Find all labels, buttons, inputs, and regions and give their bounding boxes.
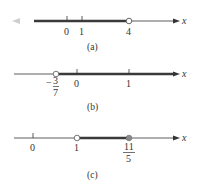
axis-variable-label: x bbox=[181, 132, 187, 143]
tick-label-4: 4 bbox=[126, 26, 131, 37]
left-arrowhead-icon bbox=[12, 18, 20, 24]
panel-c: x 0 1 11 5 (c) bbox=[14, 132, 187, 181]
tick-label-1: 1 bbox=[79, 26, 84, 37]
caption-c: (c) bbox=[87, 170, 98, 181]
panel-a: x 0 1 4 (a) bbox=[12, 15, 187, 53]
open-endpoint-icon bbox=[74, 135, 80, 141]
axis-variable-label: x bbox=[181, 68, 187, 79]
closed-endpoint-icon bbox=[126, 135, 132, 141]
fraction-sign: − bbox=[46, 77, 52, 88]
fraction-denominator: 5 bbox=[126, 153, 131, 164]
tick-label-0: 0 bbox=[64, 26, 69, 37]
tick-label-0: 0 bbox=[74, 78, 79, 89]
fraction-numerator: 11 bbox=[124, 141, 134, 152]
right-arrowhead-icon bbox=[173, 136, 180, 141]
tick-label-1: 1 bbox=[74, 142, 79, 153]
axis-variable-label: x bbox=[181, 15, 187, 26]
right-arrowhead-icon bbox=[173, 19, 180, 24]
number-line-figure: x 0 1 4 (a) x − 3 7 0 1 (b) x 0 1 11 bbox=[0, 0, 199, 192]
right-arrowhead-icon bbox=[173, 72, 180, 77]
open-endpoint-icon bbox=[126, 18, 132, 24]
tick-label-1: 1 bbox=[126, 78, 131, 89]
caption-b: (b) bbox=[87, 102, 98, 113]
fraction-numerator: 3 bbox=[53, 75, 58, 86]
panel-b: x − 3 7 0 1 (b) bbox=[14, 68, 187, 113]
caption-a: (a) bbox=[87, 42, 98, 53]
tick-label-0: 0 bbox=[30, 142, 35, 153]
fraction-denominator: 7 bbox=[53, 87, 58, 98]
